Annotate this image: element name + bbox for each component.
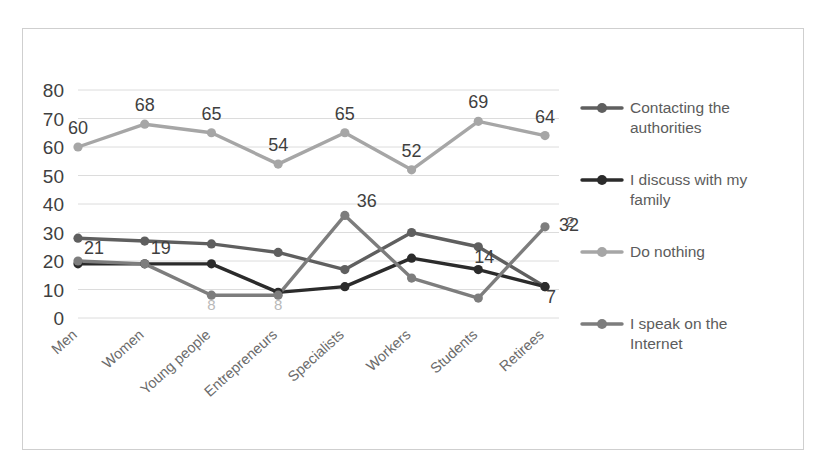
data-point-marker [340,265,349,274]
stray-artifact-text: 2 [566,213,575,230]
chart-container: 80706050403020100 MenWomenYoung peopleEn… [0,0,827,476]
data-point-marker [73,256,82,265]
x-axis-tick-label: Women [99,326,147,371]
data-point-label: 8 [274,296,282,313]
y-axis-tick-label: 60 [43,137,64,158]
legend-marker-icon [597,247,607,257]
data-point-label: 21 [84,238,104,258]
data-point-marker [73,142,82,151]
data-point-marker [207,259,216,268]
legend: Contacting theauthoritiesI discuss with … [582,99,747,352]
legend-marker-icon [597,319,607,329]
data-point-marker [540,222,549,231]
legend-item-label[interactable]: Internet [630,335,683,352]
y-axis-tick-label: 0 [53,308,64,329]
data-point-marker [140,120,149,129]
chart-svg: 80706050403020100 MenWomenYoung peopleEn… [0,0,827,476]
x-axis-tick-label: Men [48,326,80,357]
data-point-marker [340,282,349,291]
x-axis-tick-label: Retirees [496,326,547,374]
y-axis-tick-label: 80 [43,80,64,101]
stray-mark: 2 [566,213,575,230]
data-point-marker [140,259,149,268]
x-axis-ticks: MenWomenYoung peopleEntrepreneursSpecial… [48,326,547,399]
data-point-label: 65 [335,104,355,124]
data-point-label: 36 [357,191,377,211]
y-axis-tick-label: 70 [43,109,64,130]
data-point-marker [274,248,283,257]
data-point-label: 19 [151,238,171,258]
data-point-marker [407,165,416,174]
data-point-label: 69 [468,92,488,112]
x-axis-tick-label: Workers [363,326,414,374]
legend-item-label[interactable]: Do nothing [630,243,705,260]
data-point-label: 64 [535,107,555,127]
x-axis-tick-label: Students [427,326,480,376]
x-axis-tick-label: Entrepreneurs [201,326,280,399]
legend-item-label[interactable]: I discuss with my [630,171,747,188]
legend-marker-icon [597,175,607,185]
data-point-marker [407,274,416,283]
legend-item-label[interactable]: I speak on the [630,315,727,332]
y-axis-tick-label: 40 [43,194,64,215]
series-line [78,121,545,169]
data-point-label: 60 [68,118,88,138]
legend-marker-icon [597,103,607,113]
data-point-marker [474,117,483,126]
data-point-marker [407,228,416,237]
legend-item-label[interactable]: family [630,191,671,208]
data-point-marker [474,293,483,302]
data-point-label: 8 [207,296,215,313]
legend-item-label[interactable]: authorities [630,119,702,136]
data-point-label: 52 [402,141,422,161]
data-point-marker [340,211,349,220]
series-markers [73,117,549,303]
legend-item-label[interactable]: Contacting the [630,99,730,116]
x-axis-tick-label: Specialists [285,326,347,384]
data-point-marker [340,128,349,137]
y-axis-tick-label: 30 [43,223,64,244]
data-point-label: 7 [546,287,556,307]
y-axis-tick-label: 10 [43,280,64,301]
y-axis-tick-label: 20 [43,251,64,272]
y-axis-tick-label: 50 [43,166,64,187]
data-point-label: 68 [135,95,155,115]
data-point-label: 65 [201,104,221,124]
data-point-label: 14 [474,247,494,267]
data-point-label: 54 [268,135,288,155]
data-point-marker [73,234,82,243]
data-point-marker [540,131,549,140]
data-point-marker [140,236,149,245]
data-point-marker [207,128,216,137]
data-point-marker [207,239,216,248]
data-point-marker [274,160,283,169]
y-axis-ticks: 80706050403020100 [43,80,64,329]
data-point-marker [407,254,416,263]
